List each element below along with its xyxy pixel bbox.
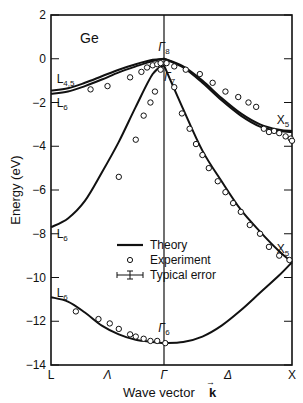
x-point-label: Γ: [161, 368, 169, 382]
experiment-point: [158, 60, 163, 65]
experiment-point: [133, 137, 138, 142]
x-point-label: L: [48, 368, 55, 382]
experiment-point: [197, 71, 202, 76]
y-tick-label: −8: [32, 227, 46, 241]
y-tick-label: −4: [32, 139, 46, 153]
experiment-point: [73, 309, 78, 314]
experiment-point: [152, 89, 157, 94]
experiment-point: [266, 244, 271, 249]
experiment-point: [139, 69, 144, 74]
y-tick-label: 0: [39, 52, 46, 66]
experiment-point: [247, 222, 252, 227]
symmetry-point-label: X5: [277, 113, 290, 129]
experiment-point: [155, 338, 160, 343]
legend: Theory Experiment Typical error: [117, 238, 216, 282]
experiment-point: [238, 209, 243, 214]
x-axis-title: Wave vector k →: [123, 377, 217, 400]
experiment-point: [163, 340, 168, 345]
experiment-point: [246, 100, 251, 105]
experiment-point: [158, 67, 163, 72]
experiment-point: [179, 111, 184, 116]
experiment-point: [223, 89, 228, 94]
experiment-point: [141, 336, 146, 341]
experiment-point: [164, 60, 169, 65]
experiment-point: [141, 113, 146, 118]
symmetry-point-label: X5: [277, 242, 290, 258]
experiment-point: [261, 126, 266, 131]
band-structure-chart: 20−2−4−6−8−10−12−14LΛΓΔX L4,5L6L6L6Γ8Γ7Γ…: [0, 0, 303, 403]
y-tick-label: −12: [26, 314, 47, 328]
theory-curve: [164, 65, 292, 262]
experiment-point: [200, 152, 205, 157]
experiment-point: [230, 200, 235, 205]
y-tick-label: 2: [39, 8, 46, 22]
experiment-point: [127, 332, 132, 337]
theory-curves: [51, 59, 292, 343]
experiment-point: [116, 326, 121, 331]
experiment-point: [127, 75, 132, 80]
x-axis-title-text: Wave vector: [123, 385, 195, 400]
experiment-point: [187, 126, 192, 131]
experiment-point: [183, 67, 188, 72]
symmetry-point-label: L4,5: [57, 72, 75, 88]
experiment-point: [116, 174, 121, 179]
x-point-label: X: [288, 368, 296, 382]
experiment-points: [73, 60, 295, 345]
symmetry-point-label: Γ8: [158, 40, 170, 56]
material-label: Ge: [80, 30, 99, 46]
y-tick-label: −10: [26, 271, 47, 285]
theory-curve: [51, 65, 164, 227]
symmetry-point-label: L6: [57, 286, 69, 302]
experiment-point: [148, 100, 153, 105]
experiment-point: [206, 165, 211, 170]
x-point-label: Δ: [223, 368, 232, 382]
experiment-point: [257, 231, 262, 236]
experiment-point: [172, 64, 177, 69]
experiment-point: [105, 83, 110, 88]
y-tick-label: −2: [32, 96, 46, 110]
symmetry-point-label: Γ7: [164, 70, 176, 86]
experiment-point: [271, 128, 276, 133]
legend-error-bar-icon: [117, 271, 143, 279]
experiment-point: [193, 141, 198, 146]
experiment-point: [133, 334, 138, 339]
legend-experiment-label: Experiment: [150, 253, 211, 267]
experiment-point: [277, 130, 282, 135]
legend-theory-label: Theory: [150, 238, 187, 252]
experiment-point: [223, 189, 228, 194]
y-axis-title: Energy (eV): [8, 155, 23, 224]
experiment-point: [88, 87, 93, 92]
experiment-point: [148, 338, 153, 343]
symmetry-point-label: Γ6: [158, 321, 170, 337]
theory-curve: [51, 297, 164, 343]
symmetry-point-label: L6: [57, 96, 69, 112]
legend-experiment-circle-icon: [127, 257, 132, 262]
y-tick-label: −14: [26, 358, 47, 372]
experiment-point: [236, 94, 241, 99]
experiment-point: [283, 134, 288, 139]
experiment-point: [253, 104, 258, 109]
x-axis-title-symbol: k: [209, 385, 217, 400]
vector-arrow-icon: →: [206, 377, 215, 387]
experiment-point: [210, 80, 215, 85]
experiment-point: [266, 129, 271, 134]
x-point-label: Λ: [102, 368, 111, 382]
experiment-point: [144, 65, 149, 70]
symmetry-point-label: L6: [57, 227, 69, 243]
experiment-point: [96, 316, 101, 321]
y-tick-label: −6: [32, 183, 46, 197]
experiment-point: [107, 321, 112, 326]
experiment-point: [215, 179, 220, 184]
experiment-point: [289, 138, 294, 143]
legend-error-label: Typical error: [150, 268, 216, 282]
